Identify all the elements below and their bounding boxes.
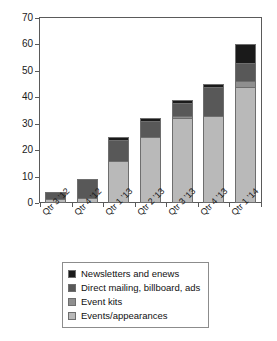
- y-tick-label: 0: [27, 198, 33, 208]
- bar-segment: [140, 121, 161, 137]
- y-axis: 010203040506070: [0, 0, 39, 341]
- legend-swatch-icon: [68, 270, 76, 278]
- y-tick-mark: [35, 177, 39, 178]
- y-tick-label: 20: [22, 145, 33, 155]
- y-tick-label: 50: [22, 66, 33, 76]
- legend-item-label: Newsletters and enews: [81, 269, 179, 279]
- x-tick-mark: [40, 203, 41, 207]
- legend-item[interactable]: Events/appearances: [68, 309, 203, 323]
- bar-segment: [235, 63, 256, 82]
- bar-segment: [235, 44, 256, 63]
- legend-item[interactable]: Newsletters and enews: [68, 267, 203, 281]
- bar-segment: [108, 140, 129, 161]
- y-tick-mark: [35, 71, 39, 72]
- bar-group: [235, 44, 256, 203]
- x-tick-mark: [135, 203, 136, 207]
- legend-item-label: Events/appearances: [81, 311, 168, 321]
- y-tick-label: 40: [22, 92, 33, 102]
- x-tick-mark: [103, 203, 104, 207]
- legend-item-label: Event kits: [81, 297, 122, 307]
- bar-segment: [203, 87, 224, 116]
- y-tick-label: 70: [22, 13, 33, 23]
- y-tick-mark: [35, 44, 39, 45]
- y-tick-label: 30: [22, 119, 33, 129]
- legend-swatch-icon: [68, 312, 76, 320]
- stacked-bar-chart: 010203040506070 Newsletters and enewsDir…: [0, 0, 277, 341]
- y-tick-mark: [35, 97, 39, 98]
- bar-group: [203, 84, 224, 203]
- y-tick-mark: [35, 124, 39, 125]
- x-tick-mark: [261, 203, 262, 207]
- y-tick-mark: [35, 150, 39, 151]
- x-tick-mark: [166, 203, 167, 207]
- legend-swatch-icon: [68, 298, 76, 306]
- bar-segment: [172, 103, 193, 116]
- legend-item[interactable]: Event kits: [68, 295, 203, 309]
- legend-item[interactable]: Direct mailing, billboard, ads: [68, 281, 203, 295]
- y-tick-label: 60: [22, 39, 33, 49]
- legend-item-label: Direct mailing, billboard, ads: [81, 283, 200, 293]
- x-tick-mark: [198, 203, 199, 207]
- x-tick-mark: [72, 203, 73, 207]
- legend-swatch-icon: [68, 284, 76, 292]
- y-tick-mark: [35, 203, 39, 204]
- x-tick-mark: [229, 203, 230, 207]
- y-tick-label: 10: [22, 172, 33, 182]
- chart-legend: Newsletters and enewsDirect mailing, bil…: [62, 262, 209, 328]
- y-tick-mark: [35, 18, 39, 19]
- bars-layer: [40, 18, 261, 203]
